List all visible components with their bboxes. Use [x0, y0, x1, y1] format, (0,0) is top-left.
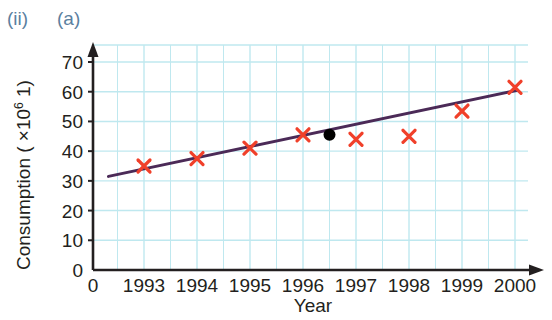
- y-axis-title-suffix: 1): [13, 80, 34, 102]
- x-tick-label: 1998: [388, 275, 430, 296]
- y-axis-title-prefix: Consumption ( ×10: [13, 109, 34, 270]
- grid-horizontal: [93, 45, 528, 240]
- y-tick-label: 10: [62, 230, 83, 251]
- x-tick-label: 1994: [176, 275, 219, 296]
- x-tick-label: 1997: [335, 275, 377, 296]
- x-axis-arrowhead: [529, 265, 544, 276]
- y-tick-label: 40: [62, 141, 83, 162]
- chart-svg: 010203040506070 199319941995199619971998…: [0, 0, 552, 320]
- x-tick-label: 1995: [229, 275, 271, 296]
- y-tick-label: 60: [62, 82, 83, 103]
- y-tick-label: 50: [62, 111, 83, 132]
- x-axis-origin-label: 0: [88, 275, 99, 296]
- figure-root: (ii) (a) 010203040506070 199319941995199…: [0, 0, 552, 320]
- y-tick-label: 0: [72, 260, 83, 281]
- y-tick-label: 70: [62, 52, 83, 73]
- x-axis-title: Year: [294, 295, 333, 316]
- line-of-best-fit: [108, 90, 517, 176]
- x-tick-label: 1996: [282, 275, 324, 296]
- x-tick-label: 2000: [494, 275, 536, 296]
- x-tick-label: 1993: [123, 275, 165, 296]
- y-tick-label: 30: [62, 171, 83, 192]
- scatter-chart: 010203040506070 199319941995199619971998…: [0, 0, 552, 320]
- mean-point-marker: [324, 129, 336, 141]
- mean-point: [324, 129, 336, 141]
- y-axis-ticks: 010203040506070: [62, 52, 93, 281]
- y-tick-label: 20: [62, 201, 83, 222]
- y-axis-arrowhead: [88, 42, 99, 57]
- y-axis-title: Consumption ( ×106 1): [12, 80, 34, 270]
- x-tick-label: 1999: [441, 275, 483, 296]
- x-axis-ticks: 19931994199519961997199819992000: [123, 275, 536, 296]
